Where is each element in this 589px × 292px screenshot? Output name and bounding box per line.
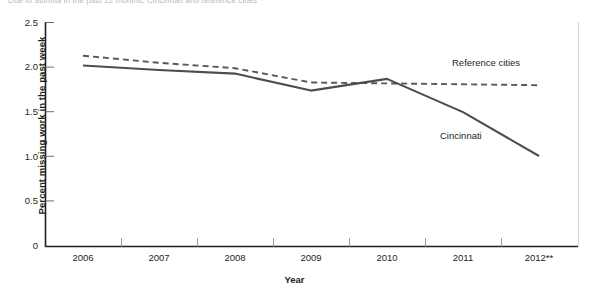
series-line-cincinnati — [83, 66, 539, 157]
x-tick-label-2007: 2007 — [129, 252, 189, 263]
x-tick-label-2011: 2011 — [433, 252, 493, 263]
y-tick-marks — [46, 23, 55, 201]
plot-area — [0, 0, 589, 292]
x-tick-label-2009: 2009 — [281, 252, 341, 263]
x-tick-label-2010: 2010 — [357, 252, 417, 263]
series-label-reference-cities: Reference cities — [452, 57, 520, 68]
x-tick-label-2008: 2008 — [205, 252, 265, 263]
x-tick-label-2012: 2012** — [509, 252, 569, 263]
x-tick-marks — [122, 238, 502, 247]
x-tick-label-2006: 2006 — [53, 252, 113, 263]
series-label-cincinnati: Cincinnati — [440, 130, 482, 141]
x-axis-title: Year — [0, 274, 589, 285]
asthma-missed-work-line-chart: Due to asthma in the past 12 months, Cin… — [0, 0, 589, 292]
